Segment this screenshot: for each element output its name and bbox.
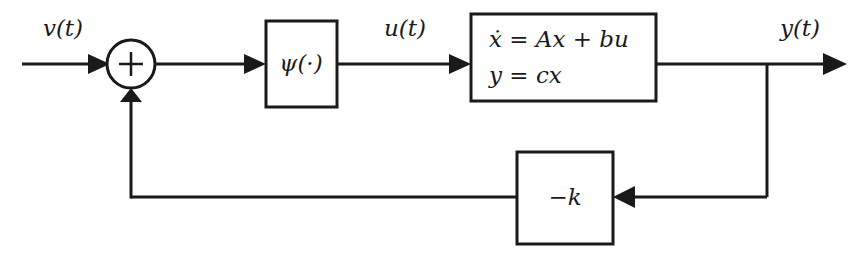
arrowhead-into-summer-feedback <box>120 88 142 102</box>
plant-block-equation-output: y = cx <box>488 62 562 88</box>
block-diagram-canvas: v(t) u(t) y(t) ψ(·) ẋ = Ax + bu y = cx −… <box>0 0 865 255</box>
label-output-signal: y(t) <box>779 15 820 41</box>
plant-block-equation-state: ẋ = Ax + bu <box>489 26 629 52</box>
arrowhead-into-nonlinearity <box>244 54 266 74</box>
nonlinearity-block-label: ψ(·) <box>279 50 322 76</box>
feedback-gain-block-label: −k <box>548 184 581 210</box>
label-control-signal: u(t) <box>384 15 426 41</box>
label-input-signal: v(t) <box>43 15 83 41</box>
arrowhead-output <box>823 53 847 75</box>
arrowhead-into-gain <box>613 186 635 208</box>
block-diagram-svg: v(t) u(t) y(t) ψ(·) ẋ = Ax + bu y = cx −… <box>0 0 865 255</box>
arrowhead-into-plant <box>449 54 471 74</box>
